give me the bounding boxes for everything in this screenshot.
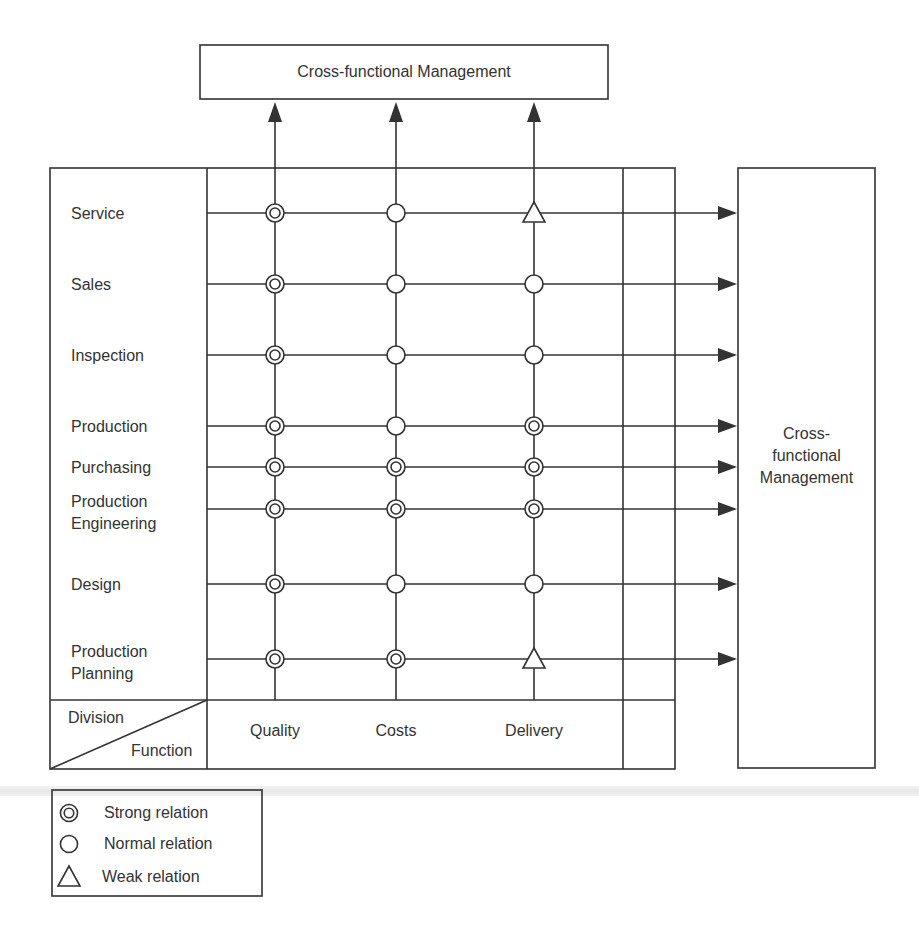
row-label-line: Purchasing <box>71 457 151 479</box>
row-label: Purchasing <box>71 457 151 479</box>
normal-relation-icon <box>525 275 543 293</box>
row-label: ProductionEngineering <box>71 491 156 535</box>
strong-relation-inner-icon <box>270 208 280 218</box>
arrow-right-icon <box>718 419 737 433</box>
row-label: ProductionPlanning <box>71 641 148 685</box>
strong-relation-inner-icon <box>270 579 280 589</box>
normal-relation-icon <box>387 204 405 222</box>
arrow-right-icon <box>718 206 737 220</box>
strong-relation-inner-icon <box>270 350 280 360</box>
normal-relation-icon <box>387 575 405 593</box>
legend-label: Normal relation <box>104 834 212 854</box>
legend-label: Weak relation <box>102 867 200 887</box>
row-label-line: Engineering <box>71 513 156 535</box>
corner-division-label: Division <box>68 708 124 728</box>
arrow-up-icon <box>268 102 282 122</box>
column-label: Costs <box>346 721 446 741</box>
arrow-up-icon <box>527 102 541 122</box>
normal-relation-icon <box>525 575 543 593</box>
row-label: Sales <box>71 274 111 296</box>
right-box-label-line: Management <box>738 467 875 489</box>
normal-relation-icon <box>387 417 405 435</box>
relation-symbols <box>266 202 545 668</box>
strong-relation-inner-icon <box>270 654 280 664</box>
row-label-line: Sales <box>71 274 111 296</box>
right-box-label-line: Cross- <box>738 423 875 445</box>
row-label-line: Service <box>71 203 124 225</box>
row-label-line: Production <box>71 491 156 513</box>
strong-relation-inner-icon <box>270 421 280 431</box>
strong-relation-inner-icon <box>391 504 401 514</box>
row-label: Inspection <box>71 345 144 367</box>
column-label: Quality <box>225 721 325 741</box>
strong-relation-inner-icon <box>270 462 280 472</box>
normal-relation-icon <box>60 835 77 852</box>
top-box-label: Cross-functional Management <box>200 62 608 82</box>
row-label: Production <box>71 416 148 438</box>
normal-relation-icon <box>387 275 405 293</box>
strong-relation-inner-icon <box>64 808 74 818</box>
right-box-label: Cross- functional Management <box>738 423 875 489</box>
legend-symbols <box>58 804 80 886</box>
legend-label: Strong relation <box>104 803 208 823</box>
column-label: Delivery <box>484 721 584 741</box>
strong-relation-inner-icon <box>270 279 280 289</box>
strong-relation-inner-icon <box>391 462 401 472</box>
row-label-line: Production <box>71 641 148 663</box>
normal-relation-icon <box>525 346 543 364</box>
corner-function-label: Function <box>131 741 192 761</box>
normal-relation-icon <box>387 346 405 364</box>
weak-relation-icon <box>523 202 545 222</box>
arrow-right-icon <box>718 348 737 362</box>
arrow-up-icon <box>389 102 403 122</box>
arrow-right-icon <box>718 577 737 591</box>
row-label-line: Production <box>71 416 148 438</box>
row-label: Design <box>71 574 121 596</box>
row-label-line: Design <box>71 574 121 596</box>
weak-relation-icon <box>523 648 545 668</box>
row-label: Service <box>71 203 124 225</box>
arrow-right-icon <box>718 652 737 666</box>
right-box-label-line: functional <box>738 445 875 467</box>
strong-relation-inner-icon <box>270 504 280 514</box>
row-label-line: Planning <box>71 663 148 685</box>
strong-relation-inner-icon <box>391 654 401 664</box>
strong-relation-inner-icon <box>529 504 539 514</box>
strong-relation-inner-icon <box>529 421 539 431</box>
arrow-right-icon <box>718 460 737 474</box>
column-lines <box>268 102 541 700</box>
row-lines <box>207 206 737 666</box>
arrow-right-icon <box>718 502 737 516</box>
strong-relation-inner-icon <box>529 462 539 472</box>
row-label-line: Inspection <box>71 345 144 367</box>
arrow-right-icon <box>718 277 737 291</box>
weak-relation-icon <box>58 866 80 886</box>
